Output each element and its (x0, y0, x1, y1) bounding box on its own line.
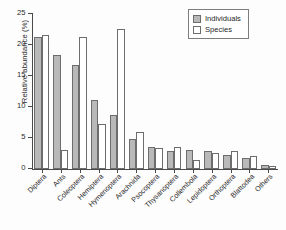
bar-species (174, 147, 181, 169)
bar-individuals (148, 147, 155, 169)
y-axis-tick-label: 10 (17, 101, 25, 110)
legend-label-species: Species (205, 25, 232, 34)
bar-individuals (186, 150, 193, 169)
y-axis-tick-label: 20 (17, 39, 25, 48)
legend-label-individuals: Individuals (205, 14, 241, 23)
bar-species (193, 160, 200, 169)
y-axis-tick-label: 0 (21, 163, 25, 172)
bar-group (53, 14, 68, 169)
bar-individuals (242, 158, 249, 169)
bar-group (91, 14, 106, 169)
legend-swatch-individuals-icon (193, 15, 201, 23)
bar-individuals (167, 151, 174, 169)
bar-individuals (72, 65, 79, 169)
bar-group (261, 14, 276, 169)
bar-individuals (91, 100, 98, 169)
bar-group (148, 14, 163, 169)
legend-swatch-species-icon (193, 26, 201, 34)
bar-individuals (110, 115, 117, 169)
bar-group (129, 14, 144, 169)
bar-species (117, 29, 124, 169)
bar-individuals (34, 37, 41, 169)
y-axis-tick: 25 (28, 13, 32, 14)
bar-individuals (223, 155, 230, 169)
legend-entry-species: Species (193, 24, 241, 35)
y-axis-tick: 5 (28, 137, 32, 138)
bar-species (231, 151, 238, 168)
y-axis-tick: 20 (28, 44, 32, 45)
bar-individuals (261, 165, 268, 169)
bar-individuals (204, 151, 211, 169)
y-axis-tick-label: 5 (21, 132, 25, 141)
bar-group (72, 14, 87, 169)
bar-species (98, 124, 105, 169)
y-axis-tick-label: 15 (17, 70, 25, 79)
bar-chart-figure: Relative abundance (%) 0510152025 Dipter… (0, 0, 286, 230)
bar-species (155, 148, 162, 168)
bar-group (110, 14, 125, 169)
bar-species (269, 166, 276, 168)
legend-entry-individuals: Individuals (193, 13, 241, 24)
bar-group (34, 14, 49, 169)
bar-individuals (129, 139, 136, 169)
bar-species (79, 37, 86, 169)
y-axis-tick: 15 (28, 75, 32, 76)
bar-individuals (53, 55, 60, 168)
y-axis-tick: 10 (28, 106, 32, 107)
bar-group (167, 14, 182, 169)
bar-species (250, 156, 257, 168)
y-axis-tick-label: 25 (17, 8, 25, 17)
y-axis-label: Relative abundance (%) (20, 0, 29, 132)
bar-species (61, 150, 68, 169)
chart-legend: Individuals Species (188, 9, 249, 39)
bar-species (42, 35, 49, 169)
bar-species (212, 153, 219, 169)
bar-species (136, 132, 143, 169)
y-axis-tick: 0 (28, 168, 32, 169)
x-axis-labels: DipteraAntsColeopteraHemipteraHymenopter… (32, 172, 278, 230)
